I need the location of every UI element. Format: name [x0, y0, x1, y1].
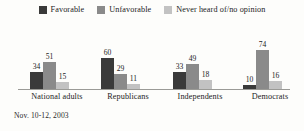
bar-group-bars: 602911 [101, 20, 140, 90]
bar-rect [43, 62, 56, 90]
bar-value-label: 49 [189, 55, 197, 63]
legend-swatch-favorable [39, 6, 47, 14]
legend-item-favorable: Favorable [39, 3, 85, 16]
bar-group-bars: 107416 [243, 20, 282, 90]
bar-group-bars: 345115 [30, 20, 69, 90]
bar: 51 [43, 20, 56, 90]
plot-area: 345115602911334918107416 [0, 20, 304, 90]
bar-value-label: 29 [117, 65, 125, 73]
x-axis-label: Democrats [230, 91, 304, 102]
bar-value-label: 33 [176, 63, 184, 71]
legend-item-never-heard: Never heard of/no opinion [164, 3, 265, 16]
bar-value-label: 74 [259, 41, 267, 49]
bar-group: 602911 [101, 20, 145, 90]
bar-value-label: 11 [130, 75, 137, 83]
bar-rect [256, 50, 269, 90]
x-axis-label: Independents [160, 91, 240, 102]
bar-group: 334918 [173, 20, 217, 90]
bar: 33 [173, 20, 186, 90]
bar: 29 [114, 20, 127, 90]
bar: 10 [243, 20, 256, 90]
legend-swatch-never-heard [164, 6, 172, 14]
bar-rect [186, 64, 199, 90]
chart-figure: Favorable Unfavorable Never heard of/no … [0, 0, 304, 131]
bar: 18 [199, 20, 212, 90]
bar: 15 [56, 20, 69, 90]
x-axis-label: National adults [17, 91, 97, 102]
bar-group-bars: 334918 [173, 20, 212, 90]
x-axis-line [18, 89, 290, 90]
legend-label-favorable: Favorable [51, 5, 85, 14]
bar: 34 [30, 20, 43, 90]
legend-label-unfavorable: Unfavorable [109, 5, 151, 14]
x-axis-category-labels: National adultsRepublicansIndependentsDe… [0, 91, 304, 103]
bar: 60 [101, 20, 114, 90]
bar-value-label: 10 [246, 76, 254, 84]
bar-value-label: 18 [202, 71, 210, 79]
bar-value-label: 34 [33, 63, 41, 71]
bar-value-label: 15 [59, 73, 67, 81]
chart-footnote: Nov. 10-12, 2003 [14, 111, 69, 121]
bar-value-label: 60 [104, 49, 112, 57]
legend-item-unfavorable: Unfavorable [97, 3, 151, 16]
bar-value-label: 16 [272, 72, 280, 80]
bar: 16 [269, 20, 282, 90]
bar-group: 107416 [243, 20, 287, 90]
chart-legend: Favorable Unfavorable Never heard of/no … [0, 3, 304, 16]
bar: 74 [256, 20, 269, 90]
bar-rect [101, 58, 114, 90]
bar-rect [114, 74, 127, 90]
x-axis-label: Republicans [88, 91, 168, 102]
bar-value-label: 51 [46, 53, 54, 61]
bar: 49 [186, 20, 199, 90]
bar: 11 [127, 20, 140, 90]
bar-group: 345115 [30, 20, 74, 90]
bar-rect [173, 72, 186, 90]
legend-swatch-unfavorable [97, 6, 105, 14]
bar-rect [30, 72, 43, 90]
legend-label-never-heard: Never heard of/no opinion [176, 5, 265, 14]
